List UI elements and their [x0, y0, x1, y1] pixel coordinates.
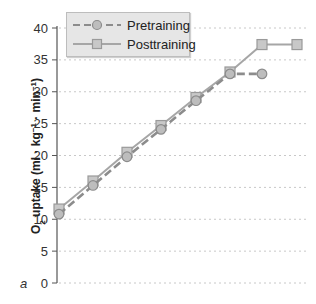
data-point-circle [88, 181, 98, 191]
data-point-circle [156, 125, 166, 135]
panel-label: a [20, 276, 27, 291]
y-tick-label: 5 [41, 244, 48, 259]
data-point-square [292, 40, 302, 50]
data-point-circle [191, 96, 201, 106]
data-point-circle [122, 152, 132, 162]
solid-square-marker-icon [73, 37, 121, 51]
data-point-circle [257, 69, 267, 79]
y-tick-label: 40 [34, 21, 48, 36]
data-point-circle [225, 69, 235, 79]
y-tick-label: 0 [41, 276, 48, 291]
legend-item-pretraining: Pretraining [73, 16, 190, 34]
legend: Pretraining Posttraining [66, 12, 190, 57]
dashed-circle-marker-icon [73, 18, 121, 32]
legend-label: Pretraining [127, 18, 190, 33]
legend-item-posttraining: Posttraining [73, 35, 196, 53]
data-point-circle [54, 209, 64, 219]
y-tick-label: 35 [34, 52, 48, 67]
legend-label: Posttraining [127, 37, 196, 52]
data-point-square [257, 40, 267, 50]
